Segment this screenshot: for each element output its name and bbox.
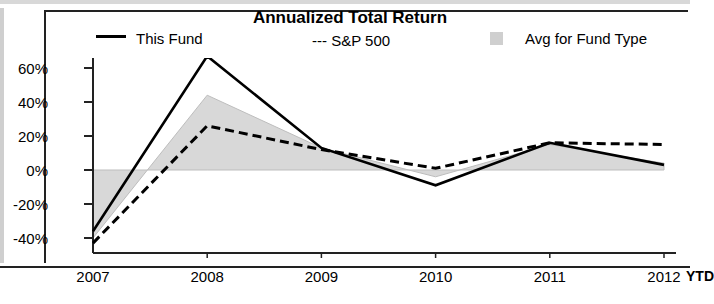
- x-axis-ytd-note: YTD: [686, 268, 714, 284]
- chart-svg: [44, 58, 688, 258]
- legend-label-this-fund: This Fund: [136, 30, 203, 47]
- scan-artifact-top: [0, 0, 690, 4]
- chart-legend: This Fund --- S&P 500 Avg for Fund Type: [0, 30, 690, 54]
- x-axis-tick-label: 2007: [76, 268, 109, 285]
- y-axis-tick-label: -40%: [13, 230, 48, 247]
- y-axis-labels: 60%40%20%0%-20%-40%: [0, 58, 48, 258]
- gray-box-swatch-icon: [490, 32, 503, 45]
- y-axis-tick-label: -20%: [13, 196, 48, 213]
- legend-item-sp500: --- S&P 500: [312, 32, 390, 49]
- x-axis-tick-label: 2010: [419, 268, 452, 285]
- legend-label-sp500: --- S&P 500: [312, 32, 390, 49]
- chart-title: Annualized Total Return: [200, 8, 500, 28]
- x-axis-tick-label: 2012: [647, 268, 680, 285]
- legend-item-avg-for-fund-type: Avg for Fund Type: [490, 30, 647, 47]
- plot-area: [44, 58, 688, 258]
- x-axis-labels: 200720082009201020112012YTD: [0, 268, 690, 294]
- x-axis-tick-label: 2011: [534, 268, 566, 285]
- x-axis-tick-label: 2009: [305, 268, 338, 285]
- legend-label-avg-for-fund-type: Avg for Fund Type: [525, 30, 647, 47]
- solid-line-swatch-icon: [96, 35, 126, 38]
- x-axis-tick-label: 2008: [191, 268, 224, 285]
- legend-item-this-fund: This Fund: [96, 30, 203, 47]
